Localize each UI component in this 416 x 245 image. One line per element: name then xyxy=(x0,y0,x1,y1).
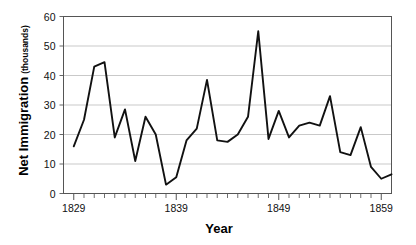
x-tick-label-1859: 1859 xyxy=(370,202,394,214)
x-axis-title: Year xyxy=(0,221,416,236)
x-tick-label-1849: 1849 xyxy=(267,202,291,214)
x-tick-marks-group xyxy=(74,194,382,201)
x-tick-label-1829: 1829 xyxy=(62,202,86,214)
y-axis-title-units: (thousands) xyxy=(20,25,30,74)
chart-figure: Net Immigration (thousands) 010203040506… xyxy=(0,0,416,245)
x-tick-labels-group: 1829183918491859 xyxy=(62,202,393,214)
y-axis-title-main: Net Immigration xyxy=(16,76,31,175)
y-tick-label-0: 0 xyxy=(50,188,56,200)
y-axis-title: Net Immigration (thousands) xyxy=(0,0,46,200)
data-line-series-net-immigration xyxy=(74,31,392,184)
x-tick-label-1839: 1839 xyxy=(165,202,189,214)
y-tick-labels-group: 0102030405060 xyxy=(44,11,64,200)
x-axis-title-text: Year xyxy=(183,221,232,236)
line-chart-plot: 0102030405060 1829183918491859 xyxy=(0,0,416,245)
